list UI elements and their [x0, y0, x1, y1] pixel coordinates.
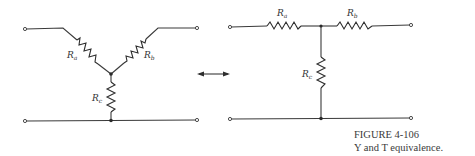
figure-title: Y and T equivalence. [354, 141, 443, 154]
y-terminal-top-right [195, 26, 198, 29]
y-label-ra: Ra [66, 50, 78, 61]
t-top-node [319, 24, 322, 27]
t-label-rb: Rb [346, 8, 358, 19]
t-label-ra: Ra [276, 8, 288, 19]
t-resistor-b [321, 22, 410, 29]
y-terminal-top-left [23, 27, 26, 30]
t-resistor-c [317, 26, 325, 119]
t-terminal-bottom-right [409, 116, 412, 119]
t-terminal-bottom-left [228, 117, 231, 120]
figure-caption: FIGURE 4-106 Y and T equivalence. [354, 128, 443, 154]
y-resistor-b [111, 28, 196, 74]
t-terminal-top-left [228, 25, 231, 28]
y-resistor-c [107, 74, 115, 121]
t-network: Ra Rb Rc [228, 8, 412, 121]
y-terminal-bottom-right [195, 118, 198, 121]
y-label-rb: Rb [143, 50, 155, 61]
y-bottom-node [109, 119, 113, 123]
y-label-rc: Rc [91, 93, 103, 104]
t-terminal-top-right [409, 23, 412, 26]
figure-number: FIGURE 4-106 [354, 128, 443, 141]
y-terminal-bottom-left [23, 119, 26, 122]
t-resistor-a [231, 22, 321, 29]
t-bottom-node [319, 117, 323, 121]
y-center-node [109, 72, 113, 76]
y-network: Ra Rb Rc [23, 26, 198, 122]
double-arrow-icon [197, 72, 230, 77]
t-label-rc: Rc [301, 69, 313, 80]
